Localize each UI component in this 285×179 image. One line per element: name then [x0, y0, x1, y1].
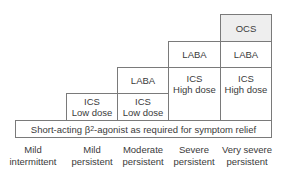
bar-text-prefix: Short-acting β: [31, 124, 90, 135]
laba-moderate-persistent: LABA: [117, 67, 169, 94]
severity-label-mild-persistent: Mild persistent: [64, 144, 120, 168]
severity-label-very-severe-persistent: Very severe persistent: [217, 144, 277, 168]
severity-label-mild-intermittent: Mild intermittent: [5, 144, 61, 168]
severity-line1: Very severe: [217, 144, 277, 156]
box-label: LABA: [234, 49, 258, 60]
box-label: LABA: [131, 75, 155, 86]
severity-line1: Severe: [166, 144, 222, 156]
severity-line2: persistent: [115, 156, 171, 168]
ics-high-dose-very-severe-persistent: ICS High dose: [220, 67, 272, 121]
box-sublabel: Low dose: [123, 107, 164, 118]
ics-high-dose-severe-persistent: ICS High dose: [168, 67, 221, 121]
severity-line2: intermittent: [5, 156, 61, 168]
severity-line1: Moderate: [115, 144, 171, 156]
box-sublabel: High dose: [173, 84, 216, 95]
saba-reliever-bar: Short-acting β2-agonist as required for …: [15, 120, 272, 138]
box-label: LABA: [182, 49, 206, 60]
ocs-very-severe-persistent: OCS: [220, 14, 272, 42]
severity-line2: persistent: [217, 156, 277, 168]
laba-very-severe-persistent: LABA: [220, 41, 272, 68]
box-label: OCS: [236, 23, 257, 34]
laba-severe-persistent: LABA: [168, 41, 221, 68]
severity-label-severe-persistent: Severe persistent: [166, 144, 222, 168]
box-label: ICS: [187, 73, 203, 84]
ics-low-dose-mild-persistent: ICS Low dose: [66, 93, 118, 121]
severity-label-moderate-persistent: Moderate persistent: [115, 144, 171, 168]
box-label: ICS: [135, 96, 151, 107]
box-sublabel: High dose: [225, 84, 268, 95]
severity-line1: Mild: [5, 144, 61, 156]
box-sublabel: Low dose: [72, 107, 113, 118]
box-label: ICS: [84, 96, 100, 107]
severity-line2: persistent: [166, 156, 222, 168]
box-label: ICS: [238, 73, 254, 84]
severity-line1: Mild: [64, 144, 120, 156]
bar-text-suffix: -agonist as required for symptom relief: [94, 124, 256, 135]
severity-line2: persistent: [64, 156, 120, 168]
ics-low-dose-moderate-persistent: ICS Low dose: [117, 93, 169, 121]
